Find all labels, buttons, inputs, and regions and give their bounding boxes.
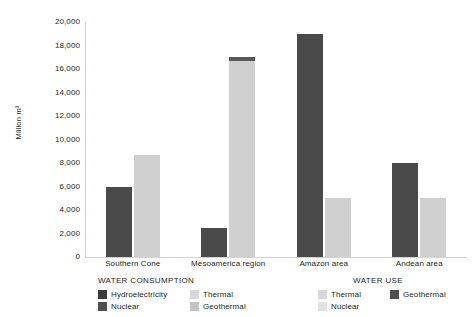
legend-water-use-title: WATER USE	[318, 276, 438, 286]
y-tick-label: 0	[75, 253, 80, 261]
x-tick-label: Mesoamerica region	[181, 259, 277, 269]
legend-item-label: Geothermal	[403, 290, 446, 299]
y-tick-label: 10,000	[55, 136, 80, 144]
bar	[229, 57, 255, 257]
bar	[106, 187, 132, 258]
legend-item: Geothermal	[190, 301, 246, 312]
x-axis-line	[85, 257, 467, 258]
bar-group	[297, 22, 351, 257]
bar	[325, 198, 351, 257]
legend-water-use-items: ThermalNuclearGeothermal	[318, 289, 446, 313]
bar-group	[392, 22, 446, 257]
legend-item-label: Nuclear	[331, 302, 359, 311]
bar-group	[106, 22, 160, 257]
legend-swatch-icon	[98, 302, 107, 311]
legend-column: ThermalGeothermal	[190, 289, 246, 313]
x-tick-label: Andean area	[372, 259, 468, 269]
bar	[201, 228, 227, 257]
legend-item: Thermal	[190, 289, 246, 300]
y-tick-label: 4,000	[59, 206, 80, 214]
legend-column: Geothermal	[390, 289, 446, 313]
x-tick-label: Southern Cone	[85, 259, 181, 269]
y-tick-label: 8,000	[59, 159, 80, 167]
y-axis-tick-labels: 20,00018,00016,00014,00012,00010,0008,00…	[36, 22, 80, 262]
legend-swatch-icon	[318, 302, 327, 311]
legend-item-label: Hydroelectricity	[111, 290, 167, 299]
legend-item-label: Thermal	[203, 290, 233, 299]
legend-swatch-icon	[318, 290, 327, 299]
legend-swatch-icon	[98, 290, 107, 299]
y-tick-label: 14,000	[55, 89, 80, 97]
legend-swatch-icon	[190, 302, 199, 311]
legend-item: Thermal	[318, 289, 390, 300]
legend-item-label: Geothermal	[203, 302, 246, 311]
legend-water-use: WATER USE ThermalNuclearGeothermal	[318, 276, 446, 313]
legend-item: Hydroelectricity	[98, 289, 190, 300]
y-tick-label: 16,000	[55, 65, 80, 73]
legend-water-consumption-items: HydroelectricityNuclearThermalGeothermal	[98, 289, 246, 313]
x-tick-label: Amazon area	[276, 259, 372, 269]
plot-area: Million m³ 20,00018,00016,00014,00012,00…	[0, 0, 476, 270]
legend-swatch-icon	[390, 290, 399, 299]
legend-item: Nuclear	[98, 301, 190, 312]
bar	[297, 34, 323, 257]
legend-water-consumption: WATER CONSUMPTION HydroelectricityNuclea…	[98, 276, 246, 313]
legend-water-consumption-title: WATER CONSUMPTION	[98, 276, 246, 286]
legend-item: Geothermal	[390, 289, 446, 300]
bar-segment-cap	[229, 57, 255, 61]
y-tick-label: 12,000	[55, 112, 80, 120]
bars-layer	[85, 22, 467, 257]
legend-item-label: Thermal	[331, 290, 361, 299]
legend-item: Nuclear	[318, 301, 390, 312]
bar	[392, 163, 418, 257]
y-axis-title: Million m³	[14, 78, 23, 168]
legend-item-label: Nuclear	[111, 302, 139, 311]
y-tick-label: 2,000	[59, 230, 80, 238]
y-tick-label: 6,000	[59, 183, 80, 191]
y-tick-label: 18,000	[55, 42, 80, 50]
bar-chart-figure: Million m³ 20,00018,00016,00014,00012,00…	[0, 0, 476, 317]
bar	[134, 155, 160, 257]
bar	[420, 198, 446, 257]
legend-swatch-icon	[190, 290, 199, 299]
legend-column: HydroelectricityNuclear	[98, 289, 190, 313]
legend-column: ThermalNuclear	[318, 289, 390, 313]
bar-group	[201, 22, 255, 257]
x-axis-category-labels: Southern ConeMesoamerica regionAmazon ar…	[85, 259, 467, 273]
y-tick-label: 20,000	[55, 18, 80, 26]
